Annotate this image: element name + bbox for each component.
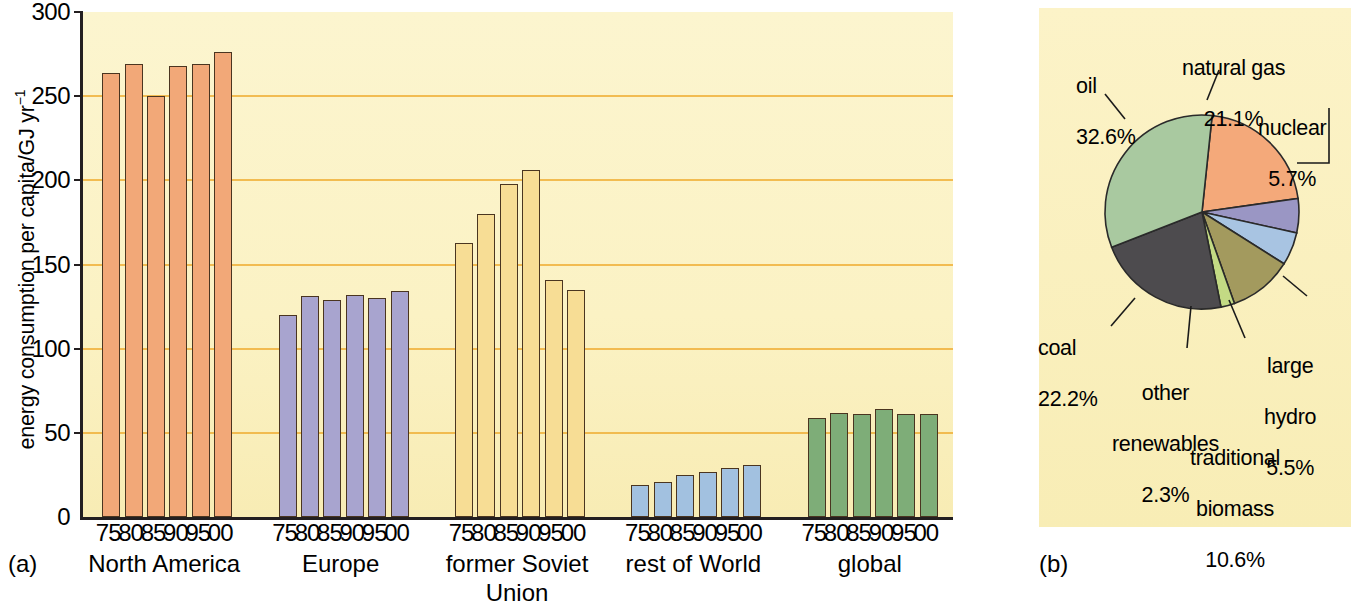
x-axis-tick-label: 75 xyxy=(801,519,826,547)
x-axis-group-label: North America xyxy=(88,549,240,578)
y-axis-tick-labels: 050100150200250300 xyxy=(0,0,70,597)
pie-leader-line xyxy=(1283,276,1307,296)
group-label-line2: Union xyxy=(486,579,549,605)
pie-label-oil: oil 32.6% xyxy=(1076,48,1135,150)
x-axis-tick-label: 00 xyxy=(737,519,762,547)
x-axis-tick-label: 85 xyxy=(846,519,871,547)
bar xyxy=(323,300,341,517)
x-axis-tick-label: 90 xyxy=(692,519,717,547)
bar xyxy=(920,414,938,517)
pie-label-nuclear-pct: 5.7% xyxy=(1268,167,1316,191)
bar xyxy=(808,418,826,517)
pie-label-large-hydro-line1: large xyxy=(1267,354,1313,378)
y-axis-tick-mark xyxy=(74,264,83,266)
y-axis-tick-mark xyxy=(74,432,83,434)
x-axis-tick-label: 85 xyxy=(493,519,518,547)
bar xyxy=(391,291,409,517)
panel-b-pie-chart: natural gas 21.1%nuclear 5.7%large hydro… xyxy=(1020,0,1356,597)
plot-area xyxy=(80,12,953,520)
x-axis-group-label: Europe xyxy=(302,549,379,578)
bar xyxy=(853,414,871,517)
x-axis-group-label: global xyxy=(838,549,902,578)
x-axis-tick-label: 85 xyxy=(317,519,342,547)
y-axis-tick-mark xyxy=(74,11,83,13)
bar xyxy=(500,184,518,517)
x-axis-tick-label: 85 xyxy=(670,519,695,547)
pie-label-other-renewables-pct: 2.3% xyxy=(1142,483,1190,507)
bar xyxy=(301,296,319,517)
bar xyxy=(721,468,739,517)
x-axis-tick-label: 00 xyxy=(384,519,409,547)
x-axis-tick-label: 00 xyxy=(208,519,233,547)
x-axis-tick-label: 90 xyxy=(516,519,541,547)
pie-label-nuclear: nuclear 5.7% xyxy=(1258,90,1326,192)
x-axis-tick-label: 75 xyxy=(625,519,650,547)
y-axis-tick-label: 300 xyxy=(12,0,70,26)
x-axis-tick-label: 95 xyxy=(891,519,916,547)
pie-label-oil-pct: 32.6% xyxy=(1076,125,1135,149)
x-axis-group-label: former SovietUnion xyxy=(446,549,589,605)
x-axis-tick-label: 00 xyxy=(913,519,938,547)
bar xyxy=(147,96,165,517)
panel-a-bar-chart: energy consumption per capita/GJ yr−1 05… xyxy=(0,0,1020,597)
pie-label-coal-name: coal xyxy=(1038,336,1076,360)
pie-leader-line xyxy=(1229,300,1245,338)
pie-label-traditional-biomass-pct: 10.6% xyxy=(1205,548,1264,572)
x-axis-tick-label: 75 xyxy=(449,519,474,547)
bar xyxy=(455,243,473,517)
y-axis-tick-mark xyxy=(74,348,83,350)
x-axis-tick-label: 85 xyxy=(141,519,166,547)
x-axis-tick-label: 90 xyxy=(339,519,364,547)
y-axis-tick-mark xyxy=(74,179,83,181)
bar xyxy=(214,52,232,517)
bar xyxy=(567,290,585,517)
bar xyxy=(631,485,649,517)
pie-label-coal-pct: 22.2% xyxy=(1038,387,1097,411)
y-axis-tick-label: 100 xyxy=(12,335,70,363)
y-axis-tick-mark xyxy=(74,95,83,97)
bar xyxy=(125,64,143,517)
bar xyxy=(368,298,386,517)
bar xyxy=(897,414,915,517)
panel-b-caption: (b) xyxy=(1039,550,1068,578)
pie-leader-line xyxy=(1187,306,1191,348)
bar xyxy=(169,66,187,517)
bar xyxy=(346,295,364,517)
x-axis-tick-label: 80 xyxy=(824,519,849,547)
x-axis-tick-label: 95 xyxy=(362,519,387,547)
x-axis-tick-label: 90 xyxy=(869,519,894,547)
x-axis-tick-label: 80 xyxy=(295,519,320,547)
y-axis-tick-label: 150 xyxy=(12,251,70,279)
y-axis-tick-label: 250 xyxy=(12,82,70,110)
pie-label-oil-name: oil xyxy=(1076,74,1097,98)
bar xyxy=(192,64,210,517)
pie-label-other-renewables: other renewables 2.3% xyxy=(1112,355,1219,508)
bar xyxy=(279,315,297,517)
x-axis-tick-label: 80 xyxy=(647,519,672,547)
pie-label-coal: coal 22.2% xyxy=(1038,310,1097,412)
x-axis-tick-label: 75 xyxy=(96,519,121,547)
bar xyxy=(545,280,563,517)
bar xyxy=(743,465,761,517)
x-axis-tick-label: 90 xyxy=(163,519,188,547)
bar xyxy=(830,413,848,517)
y-axis-tick-label: 200 xyxy=(12,166,70,194)
bar xyxy=(699,472,717,517)
x-axis-group-label: rest of World xyxy=(626,549,762,578)
x-axis-tick-label: 75 xyxy=(272,519,297,547)
pie-leader-line xyxy=(1111,298,1135,326)
bar xyxy=(102,73,120,517)
x-axis-tick-label: 80 xyxy=(471,519,496,547)
x-axis-tick-label: 95 xyxy=(538,519,563,547)
pie-label-nuclear-name: nuclear xyxy=(1258,116,1326,140)
x-axis-tick-label: 00 xyxy=(561,519,586,547)
bar xyxy=(676,475,694,517)
bar xyxy=(522,170,540,517)
pie-label-natural-gas-name: natural gas xyxy=(1182,56,1285,80)
x-axis-tick-label: 95 xyxy=(185,519,210,547)
x-axis-tick-label: 80 xyxy=(118,519,143,547)
pie-label-other-renewables-line2: renewables xyxy=(1112,432,1219,456)
pie-label-other-renewables-line1: other xyxy=(1142,381,1190,405)
panel-a-caption: (a) xyxy=(8,550,37,578)
